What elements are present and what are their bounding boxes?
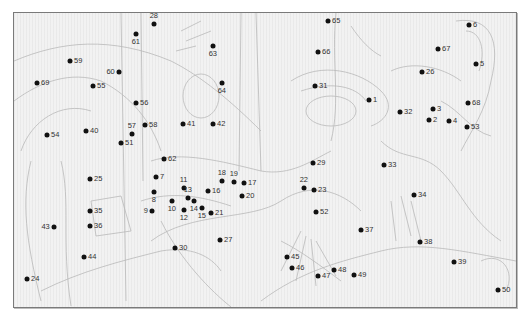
puzzle-dot-25[interactable] [88, 177, 93, 182]
puzzle-dot-33[interactable] [382, 163, 387, 168]
puzzle-dot-39[interactable] [452, 260, 457, 265]
puzzle-dot-7[interactable] [154, 175, 159, 180]
puzzle-dot-27[interactable] [218, 238, 223, 243]
puzzle-dot-36[interactable] [88, 224, 93, 229]
puzzle-dot-31[interactable] [313, 84, 318, 89]
puzzle-dot-1[interactable] [367, 98, 372, 103]
puzzle-dot-66[interactable] [316, 50, 321, 55]
puzzle-dot-56[interactable] [134, 101, 139, 106]
puzzle-dot-45[interactable] [285, 255, 290, 260]
puzzle-dot-43[interactable] [52, 225, 57, 230]
puzzle-dot-62[interactable] [162, 157, 167, 162]
puzzle-dot-14[interactable] [192, 199, 197, 204]
puzzle-dot-46[interactable] [290, 266, 295, 271]
puzzle-dot-65[interactable] [326, 19, 331, 24]
puzzle-dot-59[interactable] [68, 59, 73, 64]
puzzle-dot-55[interactable] [91, 84, 96, 89]
puzzle-dot-38[interactable] [418, 240, 423, 245]
puzzle-dot-68[interactable] [466, 101, 471, 106]
puzzle-dot-4[interactable] [447, 119, 452, 124]
puzzle-dot-67[interactable] [436, 47, 441, 52]
puzzle-dot-3[interactable] [431, 107, 436, 112]
puzzle-dot-64[interactable] [220, 81, 225, 86]
puzzle-dot-61[interactable] [134, 32, 139, 37]
line-art-background [14, 13, 516, 307]
puzzle-dot-23[interactable] [312, 188, 317, 193]
puzzle-dot-42[interactable] [211, 122, 216, 127]
puzzle-dot-15[interactable] [200, 206, 205, 211]
puzzle-dot-5[interactable] [474, 62, 479, 67]
puzzle-dot-47[interactable] [316, 274, 321, 279]
puzzle-dot-52[interactable] [314, 210, 319, 215]
puzzle-dot-22[interactable] [302, 186, 307, 191]
puzzle-dot-6[interactable] [467, 23, 472, 28]
puzzle-dot-44[interactable] [82, 255, 87, 260]
puzzle-dot-35[interactable] [88, 209, 93, 214]
puzzle-dot-30[interactable] [173, 246, 178, 251]
puzzle-dot-58[interactable] [143, 123, 148, 128]
puzzle-dot-24[interactable] [25, 277, 30, 282]
puzzle-dot-19[interactable] [232, 180, 237, 185]
puzzle-dot-34[interactable] [412, 193, 417, 198]
puzzle-dot-20[interactable] [240, 194, 245, 199]
puzzle-dot-17[interactable] [242, 181, 247, 186]
puzzle-dot-32[interactable] [398, 110, 403, 115]
puzzle-dot-18[interactable] [220, 179, 225, 184]
puzzle-dot-16[interactable] [206, 189, 211, 194]
puzzle-dot-63[interactable] [211, 44, 216, 49]
puzzle-dot-60[interactable] [117, 70, 122, 75]
puzzle-dot-12[interactable] [182, 208, 187, 213]
puzzle-dot-57[interactable] [130, 132, 135, 137]
puzzle-dot-28[interactable] [152, 22, 157, 27]
puzzle-dot-48[interactable] [332, 268, 337, 273]
puzzle-dot-13[interactable] [186, 196, 191, 201]
puzzle-dot-49[interactable] [352, 273, 357, 278]
puzzle-dot-69[interactable] [35, 81, 40, 86]
puzzle-dot-10[interactable] [170, 199, 175, 204]
puzzle-dot-26[interactable] [420, 70, 425, 75]
puzzle-dot-54[interactable] [45, 133, 50, 138]
puzzle-canvas [13, 12, 517, 308]
puzzle-dot-21[interactable] [209, 211, 214, 216]
puzzle-dot-29[interactable] [311, 161, 316, 166]
puzzle-dot-8[interactable] [152, 190, 157, 195]
puzzle-dot-2[interactable] [427, 118, 432, 123]
puzzle-dot-11[interactable] [182, 186, 187, 191]
puzzle-dot-40[interactable] [84, 129, 89, 134]
puzzle-dot-41[interactable] [181, 122, 186, 127]
puzzle-dot-37[interactable] [359, 228, 364, 233]
puzzle-dot-51[interactable] [119, 141, 124, 146]
puzzle-dot-50[interactable] [496, 288, 501, 293]
puzzle-dot-9[interactable] [150, 209, 155, 214]
puzzle-dot-53[interactable] [465, 125, 470, 130]
